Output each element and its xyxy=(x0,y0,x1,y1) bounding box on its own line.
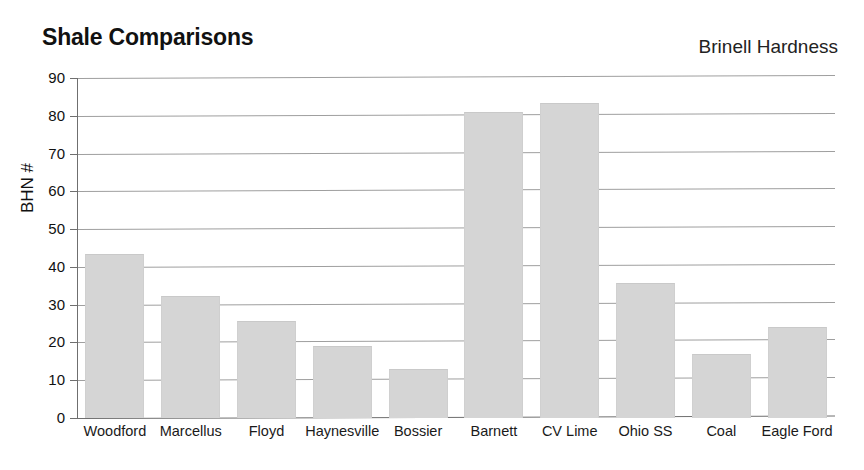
x-axis-category-label: Ohio SS xyxy=(608,424,684,440)
bar xyxy=(464,112,523,418)
y-axis-tick-label: 40 xyxy=(25,259,65,274)
y-axis-tick-label: 60 xyxy=(25,183,65,198)
x-axis-category-label: Floyd xyxy=(229,424,305,440)
bar xyxy=(540,103,599,418)
x-axis-category-label: Marcellus xyxy=(153,424,229,440)
y-axis-tick-label: 0 xyxy=(25,410,65,425)
x-axis-category-label: Haynesville xyxy=(304,424,380,440)
bar xyxy=(389,369,448,418)
y-axis-tick-label: 30 xyxy=(25,297,65,312)
bar xyxy=(313,346,372,418)
bar xyxy=(161,296,220,418)
y-axis-tick-label: 10 xyxy=(25,372,65,387)
plot-wrapper: 9080706050403020100 WoodfordMarcellusFlo… xyxy=(0,0,864,470)
x-axis-category-label: CV Lime xyxy=(532,424,608,440)
y-axis-tick-label: 20 xyxy=(25,334,65,349)
bar xyxy=(692,354,751,418)
x-axis-category-label: Coal xyxy=(683,424,759,440)
x-axis-category-label: Woodford xyxy=(77,424,153,440)
x-axis-category-label: Barnett xyxy=(456,424,532,440)
x-axis-category-label: Bossier xyxy=(380,424,456,440)
y-axis-tick-label: 70 xyxy=(25,146,65,161)
x-axis-category-label: Eagle Ford xyxy=(759,424,835,440)
plot-area xyxy=(77,78,835,418)
bar xyxy=(768,327,827,418)
y-axis-tick-label: 90 xyxy=(25,70,65,85)
bar-chart: Shale Comparisons Brinell Hardness BHN #… xyxy=(0,0,864,470)
y-axis-tick-label: 50 xyxy=(25,221,65,236)
bar xyxy=(85,254,144,418)
bar xyxy=(237,321,296,418)
bar xyxy=(616,283,675,418)
y-axis-tick-label: 80 xyxy=(25,108,65,123)
